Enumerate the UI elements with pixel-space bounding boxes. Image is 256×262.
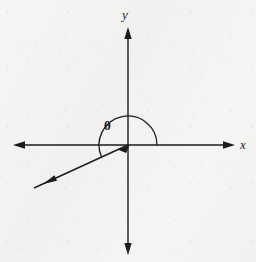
theta-angle-label: θ bbox=[104, 119, 111, 132]
terminal-ray-arrowhead bbox=[43, 175, 57, 184]
y-axis-bottom-arrowhead bbox=[124, 243, 131, 255]
coordinate-axes-svg bbox=[0, 0, 256, 262]
y-axis-top-arrowhead bbox=[124, 27, 131, 39]
x-axis-left-arrowhead bbox=[13, 141, 25, 148]
y-axis-label: y bbox=[122, 8, 128, 21]
angle-diagram-figure: y x θ bbox=[0, 0, 256, 262]
x-axis-right-arrowhead bbox=[223, 141, 235, 148]
x-axis-label: x bbox=[240, 138, 246, 151]
